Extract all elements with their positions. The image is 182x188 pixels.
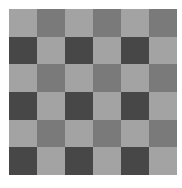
- grid-cell-medium: [149, 120, 177, 148]
- grid-cell-light: [37, 37, 65, 65]
- grid-cell-dark: [9, 37, 37, 65]
- grid-cell-light: [37, 92, 65, 120]
- grid-cell-medium: [93, 9, 121, 37]
- grid-cell-medium: [93, 64, 121, 92]
- grid-cell-light: [149, 92, 177, 120]
- grid-cell-light: [9, 9, 37, 37]
- grid-cell-dark: [9, 92, 37, 120]
- grid-cell-medium: [37, 9, 65, 37]
- grid-cell-light: [93, 37, 121, 65]
- grid-cell-dark: [9, 147, 37, 175]
- grid-cell-light: [93, 92, 121, 120]
- grid-cell-light: [9, 120, 37, 148]
- grid-cell-dark: [65, 37, 93, 65]
- grid-cell-medium: [149, 9, 177, 37]
- grid-cell-light: [65, 120, 93, 148]
- grid-cell-light: [149, 37, 177, 65]
- grid-cell-light: [65, 64, 93, 92]
- grid-cell-light: [93, 147, 121, 175]
- grid-cell-dark: [65, 147, 93, 175]
- grid-cell-medium: [149, 64, 177, 92]
- grid-cell-light: [65, 9, 93, 37]
- grid-cell-dark: [65, 92, 93, 120]
- grid-cell-dark: [121, 37, 149, 65]
- grid-cell-light: [37, 147, 65, 175]
- grid-cell-medium: [37, 64, 65, 92]
- grid-cell-light: [121, 64, 149, 92]
- grid-cell-light: [121, 9, 149, 37]
- grid-cell-light: [121, 120, 149, 148]
- grid-cell-light: [149, 147, 177, 175]
- grid-cell-light: [9, 64, 37, 92]
- checker-grid: [9, 9, 177, 175]
- grid-cell-medium: [93, 120, 121, 148]
- grid-cell-dark: [121, 92, 149, 120]
- grid-cell-dark: [121, 147, 149, 175]
- grid-cell-medium: [37, 120, 65, 148]
